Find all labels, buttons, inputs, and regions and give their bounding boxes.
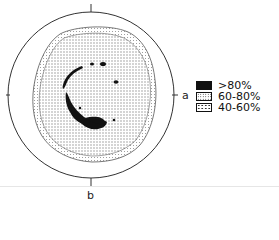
legend-swatch-solid — [196, 81, 212, 90]
legend-swatch-sparse-dots — [196, 103, 212, 112]
legend: >80% 60-80% 40-60% — [196, 80, 260, 113]
legend-item-40-60: 40-60% — [196, 102, 260, 113]
region-60-80 — [39, 33, 150, 156]
legend-swatch-dense-dots — [196, 92, 212, 101]
axis-label-b: b — [87, 189, 94, 202]
legend-label: 40-60% — [218, 102, 260, 113]
axis-label-a: a — [182, 89, 189, 102]
